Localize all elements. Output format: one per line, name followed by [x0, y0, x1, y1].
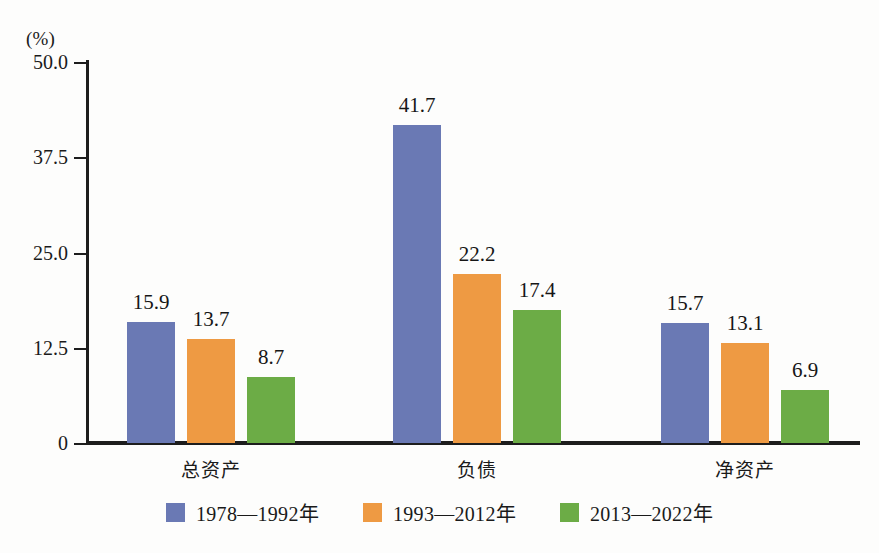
bar: 17.4 — [513, 310, 561, 443]
bar: 41.7 — [393, 125, 441, 443]
x-axis-category-label: 负债 — [457, 455, 497, 482]
y-tick-50 — [74, 62, 86, 64]
bar: 22.2 — [453, 274, 501, 443]
y-tick-25 — [74, 253, 86, 255]
legend-swatch-icon — [166, 503, 185, 522]
bar: 13.7 — [187, 339, 235, 443]
bar-chart: (%) 50.0 37.5 25.0 12.5 0 15.913.78.741.… — [0, 0, 879, 553]
y-tick-12-5 — [74, 348, 86, 350]
bar-value-label: 22.2 — [459, 242, 496, 267]
bar-value-label: 6.9 — [792, 358, 818, 383]
legend-label: 2013—2022年 — [590, 498, 713, 527]
bar-value-label: 8.7 — [258, 345, 284, 370]
bar-value-label: 13.1 — [727, 311, 764, 336]
bar: 15.7 — [661, 323, 709, 443]
legend-item[interactable]: 2013—2022年 — [560, 498, 713, 527]
bar-value-label: 17.4 — [519, 278, 556, 303]
bar: 6.9 — [781, 390, 829, 443]
bar-value-label: 15.7 — [667, 291, 704, 316]
bar: 8.7 — [247, 377, 295, 443]
bar: 13.1 — [721, 343, 769, 443]
chart-legend: 1978—1992年1993—2012年2013—2022年 — [0, 498, 879, 527]
legend-label: 1978—1992年 — [196, 498, 319, 527]
y-tick-0 — [74, 443, 86, 445]
legend-label: 1993—2012年 — [393, 498, 516, 527]
legend-item[interactable]: 1978—1992年 — [166, 498, 319, 527]
y-tick-label-37-5: 37.5 — [33, 146, 68, 169]
legend-swatch-icon — [560, 503, 579, 522]
bar-value-label: 41.7 — [399, 93, 436, 118]
y-tick-label-50: 50.0 — [33, 51, 68, 74]
y-axis-unit-label: (%) — [26, 28, 55, 50]
x-axis-category-label: 总资产 — [181, 455, 241, 482]
y-tick-label-25: 25.0 — [33, 241, 68, 264]
bar-value-label: 15.9 — [133, 290, 170, 315]
x-axis-category-label: 净资产 — [715, 455, 775, 482]
plot-area: 50.0 37.5 25.0 12.5 0 15.913.78.741.722.… — [86, 62, 860, 443]
legend-item[interactable]: 1993—2012年 — [363, 498, 516, 527]
y-tick-label-12-5: 12.5 — [33, 336, 68, 359]
y-tick-label-0: 0 — [58, 432, 68, 455]
y-tick-37-5 — [74, 157, 86, 159]
legend-swatch-icon — [363, 503, 382, 522]
bar: 15.9 — [127, 322, 175, 443]
bar-value-label: 13.7 — [193, 307, 230, 332]
